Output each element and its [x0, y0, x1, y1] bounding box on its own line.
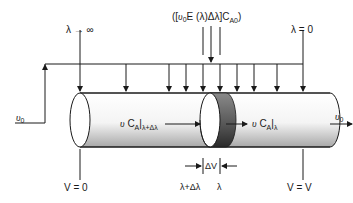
- inlet-flow-label: υ0: [16, 112, 25, 125]
- outlet-flow-label: υ0: [335, 111, 344, 124]
- flow-in-label: υ CA|λ+Δλ: [120, 118, 158, 131]
- tubular-reactor: [70, 93, 340, 147]
- delta-v-label: ΔV: [205, 160, 217, 172]
- dimension-markers: [80, 149, 303, 180]
- lambda-label: λ: [217, 181, 222, 193]
- feed-term-label: ([υ0E (λ)Δλ]CA0): [172, 11, 241, 24]
- reactor-inlet-face: [70, 93, 90, 147]
- lambda-zero-label: λ = 0: [291, 24, 313, 36]
- lambda-plus-delta-label: λ+Δλ: [180, 181, 200, 193]
- lambda-infinity-label: λ → ∞: [66, 24, 94, 36]
- volume-start-label: V = 0: [64, 182, 88, 194]
- volume-end-label: V = V: [287, 182, 312, 194]
- flow-out-label: υ CA|λ: [252, 118, 277, 131]
